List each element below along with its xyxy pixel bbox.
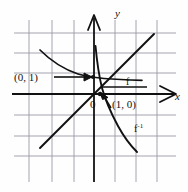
point-label-1-0: (1, 0) bbox=[112, 99, 136, 110]
graph-canvas bbox=[0, 0, 188, 192]
y-axis-label: y bbox=[115, 8, 120, 19]
point-f-leader-arrowhead bbox=[84, 73, 92, 81]
x-axis-label: x bbox=[175, 91, 180, 102]
origin-label: 0 bbox=[90, 99, 96, 110]
point-marker-0-1 bbox=[91, 75, 95, 79]
curve-f-label: f bbox=[126, 77, 129, 87]
curve-f-inverse-exponent: -1 bbox=[137, 122, 143, 130]
curve-f-inverse-label: f-1 bbox=[134, 123, 143, 134]
function-and-inverse-graph: y x 0 (0, 1) (1, 0) f f-1 bbox=[0, 0, 188, 192]
point-marker-1-0 bbox=[98, 92, 102, 96]
point-label-0-1: (0, 1) bbox=[14, 72, 38, 83]
point-f-leader bbox=[54, 73, 92, 81]
